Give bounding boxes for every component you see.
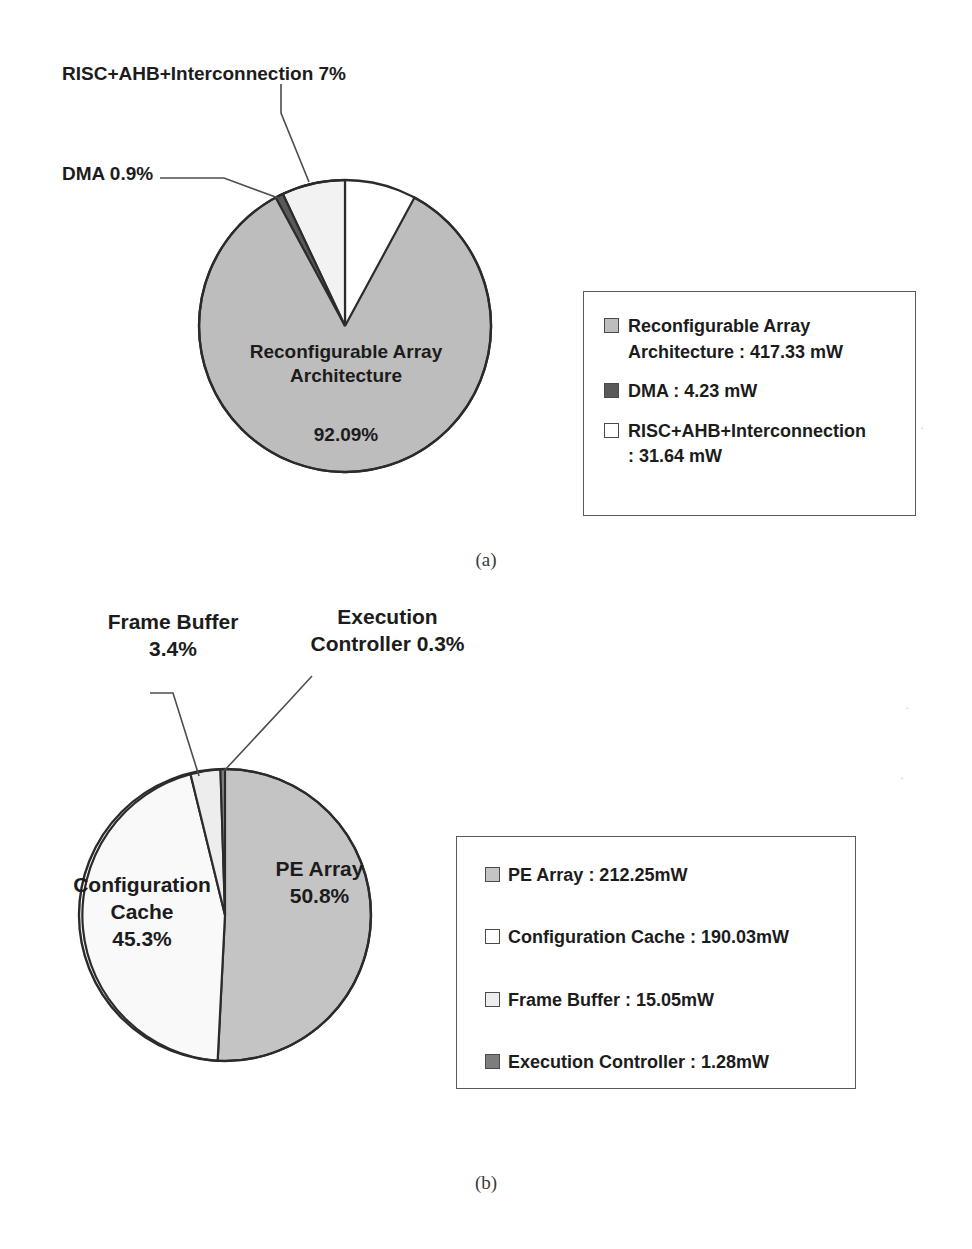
pie-b-callout-execution-controller: Execution Controller 0.3% (285, 604, 490, 658)
caption-panel-a: (a) (456, 549, 516, 571)
legend-b-item-frame-buffer[interactable]: Frame Buffer : 15.05mW (485, 988, 845, 1012)
pie-b-inner-label-pe-array-percent: 50.8% (252, 883, 387, 910)
legend-b-label-configuration-cache: Configuration Cache : 190.03mW (508, 925, 789, 949)
caption-panel-b: (b) (456, 1172, 516, 1194)
legend-a-item-dma[interactable]: DMA : 4.23 mW (604, 379, 903, 405)
legend-a-label-reconfigurable-array: Reconfigurable Array Architecture : 417.… (628, 314, 843, 365)
pie-b-inner-label-cc-line1: Configuration (62, 872, 222, 899)
legend-swatch-dma-icon (604, 383, 619, 398)
legend-a-label-line1: Reconfigurable Array (628, 316, 810, 336)
legend-a-item-reconfigurable-array[interactable]: Reconfigurable Array Architecture : 417.… (604, 314, 903, 365)
pie-b-inner-label-configuration-cache: Configuration Cache 45.3% (62, 872, 222, 953)
scan-artifact-speckle: · (905, 700, 909, 716)
legend-swatch-configuration-cache-icon (485, 929, 500, 944)
legend-panel-b: PE Array : 212.25mW Configuration Cache … (456, 836, 856, 1089)
legend-b-item-pe-array[interactable]: PE Array : 212.25mW (485, 863, 845, 887)
legend-a-label-dma: DMA : 4.23 mW (628, 379, 757, 405)
legend-b-label-pe-array: PE Array : 212.25mW (508, 863, 687, 887)
scan-artifact-speckle: · (920, 420, 924, 436)
pie-a-inner-label-reconfigurable-array: Reconfigurable Array Architecture 92.09% (205, 340, 487, 447)
legend-b-item-execution-controller[interactable]: Execution Controller : 1.28mW (485, 1050, 845, 1074)
pie-a-inner-label-line1: Reconfigurable Array (205, 340, 487, 364)
figure-power-breakdown-pies: RISC+AHB+Interconnection 7% DMA 0.9% Rec… (0, 0, 972, 1249)
legend-a-item-risc-ahb-interconnection[interactable]: RISC+AHB+Interconnection : 31.64 mW (604, 419, 903, 470)
pie-b-inner-label-pe-array: PE Array 50.8% (252, 856, 387, 910)
pie-b-inner-label-cc-percent: 45.3% (62, 926, 222, 953)
pie-a-callout-dma: DMA 0.9% (62, 162, 153, 186)
legend-b-item-configuration-cache[interactable]: Configuration Cache : 190.03mW (485, 925, 845, 949)
pie-a-inner-label-percent: 92.09% (205, 423, 487, 447)
pie-a-leader-risc (281, 84, 309, 182)
pie-b-callout-frame-buffer-line2: 3.4% (88, 636, 258, 663)
legend-a-label-risc-ahb-interconnection: RISC+AHB+Interconnection : 31.64 mW (628, 419, 866, 470)
pie-a-callout-risc-ahb-interconnection: RISC+AHB+Interconnection 7% (62, 62, 346, 86)
pie-b-inner-label-cc-line2: Cache (62, 899, 222, 926)
legend-b-label-execution-controller: Execution Controller : 1.28mW (508, 1050, 769, 1074)
legend-swatch-pe-array-icon (485, 867, 500, 882)
legend-panel-a: Reconfigurable Array Architecture : 417.… (583, 291, 916, 516)
scan-artifact-speckle: · (900, 770, 904, 786)
legend-a-risc-line2: : 31.64 mW (628, 446, 722, 466)
legend-b-label-frame-buffer: Frame Buffer : 15.05mW (508, 988, 714, 1012)
legend-swatch-reconfigurable-array-icon (604, 318, 619, 333)
pie-b-inner-label-pe-array-name: PE Array (252, 856, 387, 883)
legend-swatch-execution-controller-icon (485, 1054, 500, 1069)
pie-b-leader-frame-buffer (150, 693, 199, 776)
pie-b-slice-pe-array (218, 769, 371, 1061)
pie-a-leader-dma (160, 178, 281, 199)
legend-a-risc-line1: RISC+AHB+Interconnection (628, 421, 866, 441)
pie-b-callout-frame-buffer-line1: Frame Buffer (88, 609, 258, 636)
pie-b-leader-execution-controller (224, 676, 312, 771)
legend-swatch-frame-buffer-icon (485, 992, 500, 1007)
legend-swatch-risc-ahb-interconnection-icon (604, 423, 619, 438)
pie-b-callout-execution-controller-line1: Execution (285, 604, 490, 631)
pie-b-callout-execution-controller-line2: Controller 0.3% (285, 631, 490, 658)
pie-b-callout-frame-buffer: Frame Buffer 3.4% (88, 609, 258, 663)
legend-a-label-line2: Architecture : 417.33 mW (628, 342, 843, 362)
pie-a-inner-label-line2: Architecture (205, 364, 487, 388)
